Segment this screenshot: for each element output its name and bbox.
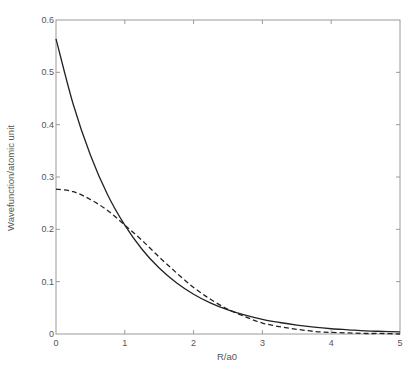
x-tick-label: 2 [191, 338, 196, 348]
dashed-curve [56, 189, 400, 334]
y-tick-label: 0.3 [41, 172, 54, 182]
y-tick-label: 0.4 [41, 120, 54, 130]
plot-frame [56, 20, 400, 334]
tick-labels: 01234500.10.20.30.40.50.6 [41, 15, 402, 348]
y-tick-label: 0.2 [41, 224, 54, 234]
y-tick-label: 0.6 [41, 15, 54, 25]
y-tick-label: 0.5 [41, 67, 54, 77]
x-axis-label: R/a0 [217, 351, 237, 362]
x-tick-label: 1 [122, 338, 127, 348]
x-tick-label: 4 [329, 338, 334, 348]
plot-series [56, 39, 400, 334]
solid-curve [56, 39, 400, 332]
y-axis-label: Wavefunction/atomic unit [5, 125, 16, 231]
wavefunction-chart: 01234500.10.20.30.40.50.6 R/a0 Wavefunct… [0, 0, 419, 380]
y-tick-label: 0 [49, 329, 54, 339]
x-tick-label: 0 [53, 338, 58, 348]
x-tick-label: 3 [260, 338, 265, 348]
y-tick-label: 0.1 [41, 277, 54, 287]
plot-axes [56, 20, 400, 334]
x-tick-label: 5 [397, 338, 402, 348]
